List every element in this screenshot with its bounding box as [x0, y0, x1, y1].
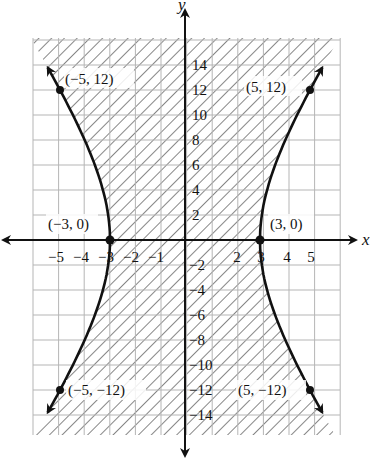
x-tick: −1 — [148, 249, 164, 265]
y-tick: −6 — [189, 307, 205, 323]
point-3-0 — [256, 236, 265, 245]
label-5-12: (5, 12) — [246, 79, 286, 96]
point-5-neg12 — [306, 386, 314, 394]
y-tick: 6 — [192, 157, 200, 173]
y-tick: −12 — [189, 382, 212, 398]
label-neg5-12: (−5, 12) — [65, 71, 113, 88]
x-tick: −2 — [123, 249, 139, 265]
x-tick: −4 — [73, 249, 89, 265]
y-tick: −10 — [189, 357, 212, 373]
x-tick: 5 — [307, 249, 315, 265]
point-neg3-0 — [106, 236, 115, 245]
y-tick: 2 — [192, 207, 200, 223]
x-tick: −3 — [98, 249, 114, 265]
x-tick: 2 — [233, 249, 241, 265]
label-3-0: (3, 0) — [270, 216, 303, 233]
y-tick: 12 — [192, 82, 207, 98]
label-neg3-0: (−3, 0) — [48, 216, 89, 233]
y-tick: −4 — [189, 282, 205, 298]
point-neg5-12 — [56, 86, 64, 94]
x-tick: 4 — [283, 249, 291, 265]
y-tick: 14 — [192, 57, 208, 73]
y-axis-label: y — [176, 0, 186, 14]
x-axis-label: x — [361, 230, 370, 249]
point-5-12 — [306, 86, 314, 94]
x-tick: −5 — [48, 249, 64, 265]
y-tick: −8 — [189, 332, 205, 348]
hyperbola-graph: x y −5 −4 −3 −2 −1 2 3 4 5 14 12 10 8 6 … — [0, 0, 375, 460]
y-tick: 4 — [192, 182, 200, 198]
y-tick: −2 — [189, 257, 205, 273]
point-neg5-neg12 — [56, 386, 64, 394]
y-tick: 8 — [192, 132, 200, 148]
label-neg5-neg12: (−5, −12) — [68, 382, 125, 399]
label-5-neg12: (5, −12) — [238, 382, 286, 399]
y-tick: −14 — [189, 407, 213, 423]
y-tick: 10 — [192, 107, 207, 123]
